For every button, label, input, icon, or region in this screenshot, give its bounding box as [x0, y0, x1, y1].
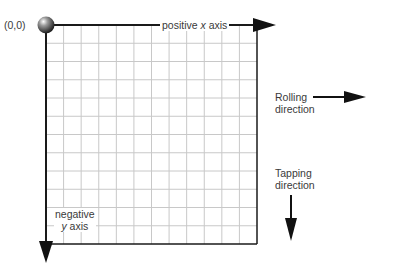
rolling-label-line2: direction: [275, 103, 315, 115]
y-axis-label-line1: negative: [55, 208, 95, 220]
rolling-label-line1: Rolling: [275, 91, 315, 103]
y-axis-label-line2: y axis: [55, 220, 95, 232]
x-axis-prefix: positive: [162, 19, 201, 31]
origin-label: (0,0): [4, 19, 26, 31]
coordinate-diagram: (0,0) positive x axis Rolling direction …: [0, 0, 397, 269]
y-axis-suffix: axis: [67, 220, 89, 232]
positive-x-axis-label: positive x axis: [160, 19, 229, 31]
rolling-arrow-icon: [344, 91, 366, 103]
origin-ball-icon: [38, 17, 55, 34]
negative-y-axis-label: negative y axis: [54, 208, 96, 232]
rolling-direction-label: Rolling direction: [275, 91, 315, 115]
tapping-label-line2: direction: [275, 179, 315, 191]
tapping-label-line1: Tapping: [275, 167, 315, 179]
x-axis-arrowhead-icon: [253, 18, 276, 32]
x-axis-suffix: axis: [206, 19, 228, 31]
tapping-arrow-icon: [285, 218, 297, 241]
y-axis-arrowhead-icon: [39, 241, 53, 263]
tapping-direction-label: Tapping direction: [275, 167, 315, 191]
